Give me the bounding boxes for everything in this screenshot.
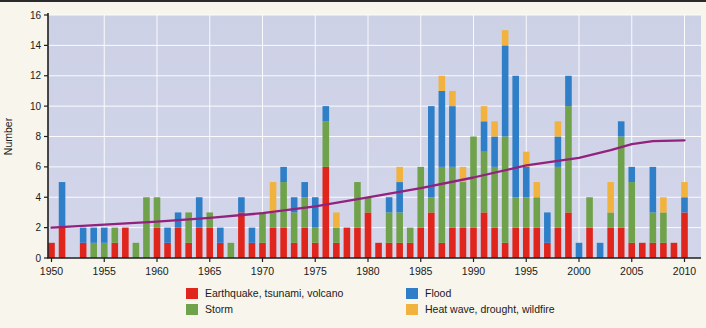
bar-segment	[280, 228, 287, 258]
bar-1967	[228, 243, 235, 258]
earthquake-legend-label: Earthquake, tsunami, volcano	[205, 288, 343, 299]
bar-segment	[502, 30, 509, 45]
bar-segment	[228, 243, 235, 258]
bar-segment	[681, 197, 688, 212]
bar-segment	[175, 228, 182, 258]
bar-1995	[523, 152, 530, 258]
y-tick-label-4: 4	[35, 192, 41, 203]
bar-segment	[312, 228, 319, 243]
bar-segment	[301, 197, 308, 227]
bar-segment	[164, 228, 171, 243]
bar-segment	[154, 228, 161, 258]
bar-2004	[618, 121, 625, 258]
bar-segment	[481, 106, 488, 121]
bar-1972	[280, 167, 287, 258]
y-tick-label-12: 12	[30, 70, 42, 81]
bar-segment	[112, 243, 119, 258]
bar-segment	[365, 197, 372, 212]
bar-1998	[555, 121, 562, 258]
bar-2010	[681, 182, 688, 258]
bar-2002	[597, 243, 604, 258]
bar-segment	[534, 182, 541, 197]
bar-segment	[323, 167, 330, 258]
bar-segment	[628, 167, 635, 182]
bar-segment	[607, 212, 614, 227]
bar-segment	[555, 167, 562, 228]
bar-segment	[439, 76, 446, 91]
bar-1980	[365, 197, 372, 258]
bar-1970	[259, 212, 266, 258]
bar-segment	[502, 243, 509, 258]
bar-2009	[671, 243, 678, 258]
bar-segment	[396, 243, 403, 258]
x-tick-label-2005: 2005	[620, 265, 644, 277]
bar-segment	[164, 243, 171, 258]
y-tick-label-6: 6	[35, 161, 41, 172]
x-tick-label-2000: 2000	[567, 265, 591, 277]
bar-2000	[576, 243, 583, 258]
bar-segment	[59, 182, 66, 228]
bar-segment	[386, 212, 393, 242]
bar-segment	[196, 228, 203, 258]
bar-segment	[449, 106, 456, 167]
bar-1979	[354, 182, 361, 258]
x-tick-label-1990: 1990	[462, 265, 486, 277]
bar-1971	[270, 182, 277, 258]
bar-2001	[586, 197, 593, 258]
bar-1957	[122, 228, 129, 258]
bar-segment	[270, 212, 277, 227]
bar-segment	[185, 243, 192, 258]
bar-segment	[481, 152, 488, 213]
bar-1992	[491, 121, 498, 258]
bar-1956	[112, 228, 119, 258]
bar-segment	[154, 197, 161, 227]
bar-1997	[544, 212, 551, 258]
bar-segment	[681, 212, 688, 258]
bar-segment	[280, 182, 287, 228]
bar-segment	[491, 167, 498, 228]
bar-1950	[48, 243, 55, 258]
flood-legend-swatch	[406, 288, 418, 299]
bar-segment	[628, 243, 635, 258]
x-tick-label-1985: 1985	[409, 265, 433, 277]
bar-segment	[650, 167, 657, 213]
bar-segment	[523, 167, 530, 197]
bar-1965	[206, 212, 213, 258]
bar-segment	[59, 228, 66, 258]
bar-segment	[196, 197, 203, 227]
bar-1990	[470, 137, 477, 259]
bar-segment	[650, 243, 657, 258]
bar-segment	[80, 228, 87, 243]
bar-2006	[639, 243, 646, 258]
x-tick-label-1965: 1965	[198, 265, 222, 277]
bar-segment	[280, 167, 287, 182]
bar-segment	[301, 228, 308, 258]
bar-segment	[206, 212, 213, 227]
bar-segment	[101, 243, 108, 258]
bar-segment	[217, 243, 224, 258]
bar-1974	[301, 182, 308, 258]
bar-segment	[101, 228, 108, 243]
bar-2003	[607, 182, 614, 258]
bar-segment	[544, 212, 551, 242]
bar-1968	[238, 197, 245, 258]
x-tick-label-1970: 1970	[251, 265, 275, 277]
bar-segment	[607, 182, 614, 212]
y-tick-label-10: 10	[30, 101, 42, 112]
bar-1977	[333, 212, 340, 258]
x-tick-label-1975: 1975	[304, 265, 328, 277]
bar-segment	[407, 228, 414, 243]
bar-1958	[133, 243, 140, 258]
bar-segment	[597, 243, 604, 258]
bar-segment	[544, 243, 551, 258]
x-tick-label-2010: 2010	[673, 265, 697, 277]
bar-1985	[417, 167, 424, 258]
bar-segment	[470, 137, 477, 228]
y-tick-label-14: 14	[30, 40, 42, 51]
bar-segment	[323, 121, 330, 167]
legend-item-storm: Storm	[186, 304, 233, 315]
bar-segment	[660, 197, 667, 212]
bar-segment	[333, 243, 340, 258]
bar-1954	[90, 228, 97, 258]
bar-segment	[555, 121, 562, 136]
